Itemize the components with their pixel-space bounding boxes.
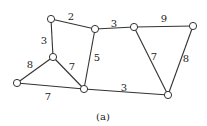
node-D: [13, 79, 20, 86]
edge-G-H: [168, 26, 193, 95]
node-F: [130, 23, 137, 30]
node-H: [164, 91, 171, 98]
node-B: [91, 25, 98, 32]
edge-weight-E-H: 3: [121, 82, 127, 93]
edge-F-G: [134, 26, 193, 27]
edge-weight-F-H: 7: [151, 51, 157, 62]
edge-weight-A-C: 3: [41, 35, 47, 46]
node-C: [49, 53, 56, 60]
edge-weight-C-E: 7: [69, 61, 75, 72]
edge-weight-C-D: 8: [27, 59, 33, 70]
edge-weight-G-H: 8: [183, 53, 189, 64]
edge-weight-B-E: 5: [94, 52, 100, 63]
node-G: [189, 22, 196, 29]
edge-weight-F-G: 9: [161, 13, 167, 24]
node-E: [80, 85, 87, 92]
edges-layer: [17, 19, 193, 95]
edge-weight-A-B: 2: [68, 11, 74, 22]
edge-weight-D-E: 7: [45, 91, 51, 102]
graph-diagram: 23358773978 (a): [0, 0, 207, 126]
edge-A-C: [51, 19, 53, 57]
edge-weight-B-F: 3: [111, 18, 117, 29]
edge-D-E: [17, 83, 84, 89]
nodes-layer: [13, 15, 196, 98]
figure-caption: (a): [96, 111, 110, 122]
node-A: [47, 15, 54, 22]
edge-C-D: [17, 57, 53, 83]
